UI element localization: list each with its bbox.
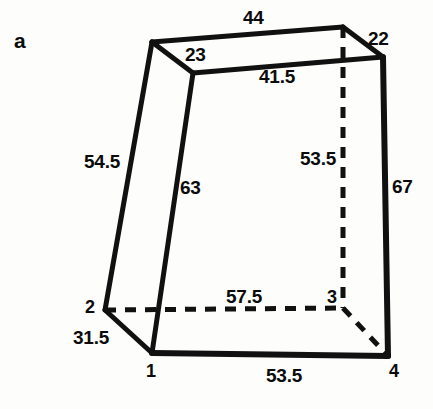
dimension-label-top-right-short: 22 xyxy=(368,29,389,48)
dimension-label-left-front-edge: 63 xyxy=(180,178,201,197)
vertex-label-2: 2 xyxy=(85,298,95,316)
figure-container: a 44232241.554.56353.56757.531.553.5 123… xyxy=(0,0,433,409)
vertex-label-3: 3 xyxy=(327,288,337,306)
vertex-label-4: 4 xyxy=(389,362,399,380)
vertex-label-1: 1 xyxy=(146,362,156,380)
edge-right-front xyxy=(383,57,388,356)
dimension-label-top-front: 41.5 xyxy=(259,67,295,86)
dimension-label-top-back: 44 xyxy=(243,8,264,27)
dimension-label-top-left-short: 23 xyxy=(185,45,206,64)
edge-left-back xyxy=(105,42,152,310)
hidden-bottom-right xyxy=(343,308,388,356)
edge-top-back xyxy=(152,27,343,42)
dimension-label-bottom-back: 57.5 xyxy=(226,287,262,306)
dimension-label-right-edge: 67 xyxy=(392,177,413,196)
prism-line-drawing xyxy=(0,0,433,409)
hidden-bottom-back xyxy=(105,308,343,310)
edge-bottom-front xyxy=(152,353,388,356)
dimension-label-bottom-left: 31.5 xyxy=(73,328,109,347)
dimension-label-left-back-edge: 54.5 xyxy=(84,152,120,171)
panel-letter: a xyxy=(14,30,25,51)
dimension-label-back-right-edge: 53.5 xyxy=(300,149,336,168)
dimension-label-bottom-front: 53.5 xyxy=(266,366,302,385)
edge-bottom-left xyxy=(105,310,152,353)
